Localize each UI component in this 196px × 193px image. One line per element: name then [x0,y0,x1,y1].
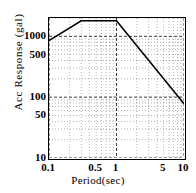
x-tick-label: 5 [160,162,166,173]
x-tick-label: 10 [178,162,189,173]
y-tick-label: 1000 [0,30,46,41]
plot-canvas [49,18,184,158]
y-tick-label: 100 [0,91,46,102]
plot-area [48,17,186,160]
y-tick-label: 500 [0,49,46,60]
y-tick-label: 50 [0,109,46,120]
x-tick-label: 1 [113,162,119,173]
acc-response-spectrum-chart: Acc Response (gal) 10005001005010 0.10.5… [0,0,196,193]
x-tick-label: 0.1 [41,162,55,173]
x-axis-title: Period(sec) [0,174,196,186]
x-tick-label: 0.5 [88,162,102,173]
